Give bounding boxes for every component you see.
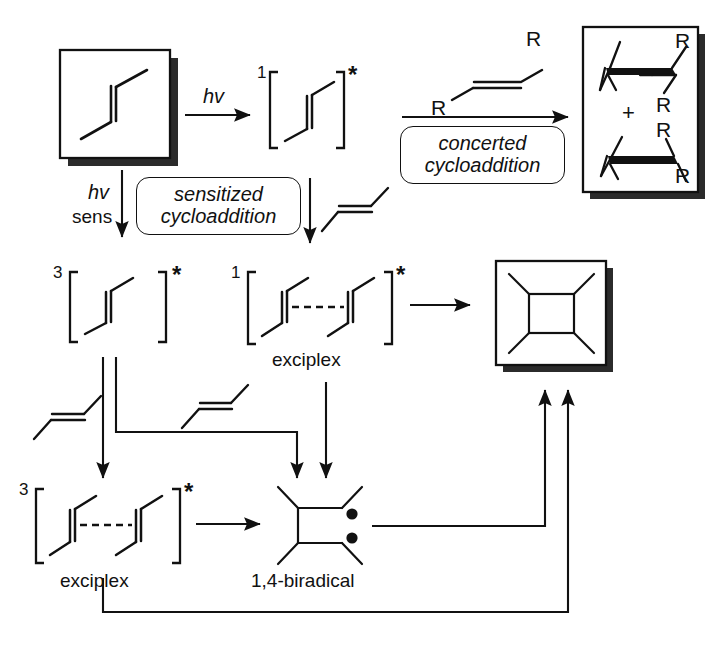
singlet-excited-alkene — [270, 72, 344, 148]
callout-sensitized-cycloaddition: sensitized cycloaddition — [136, 177, 301, 235]
callout-sensitized-line1: sensitized — [174, 183, 263, 205]
label-multiplicity-triplet-excited: 3 — [53, 264, 62, 282]
reagent-alkene-elbow-path — [182, 385, 248, 428]
label-r-group-product-4: R — [675, 165, 690, 187]
callout-concerted-line1: concerted — [439, 132, 527, 154]
callout-concerted-cycloaddition: concerted cycloaddition — [400, 126, 565, 184]
reaction-scheme-diagram: hv 1 * R R R R R R + concerted cycloaddi… — [0, 0, 719, 649]
reagent-alkene-singlet-path — [322, 188, 388, 231]
reagent-alkene-triplet-path — [34, 396, 101, 439]
biradical-structure — [278, 487, 362, 564]
radical-dot-upper — [346, 508, 357, 519]
label-multiplicity-singlet-exciplex: 1 — [231, 264, 240, 282]
label-star-singlet-excited: * — [348, 62, 357, 87]
label-multiplicity-triplet-exciplex: 3 — [19, 481, 28, 499]
callout-sensitized-line2: cycloaddition — [161, 205, 277, 227]
starting-material-box — [60, 50, 178, 166]
label-r-group-reagent-bottom: R — [431, 97, 446, 119]
singlet-exciplex — [248, 272, 392, 344]
reagent-alkene-r-structure — [452, 70, 542, 100]
label-r-group-product-3: R — [656, 119, 671, 141]
label-hv-sens-top: hv — [88, 182, 109, 203]
label-hv-direct: hv — [203, 86, 224, 107]
triplet-exciplex — [36, 489, 180, 563]
label-r-group-product-1: R — [675, 30, 690, 52]
triplet-excited-alkene — [70, 272, 166, 342]
elbow-triplet-to-biradical — [116, 357, 297, 478]
label-r-group-reagent-top: R — [526, 28, 541, 50]
callout-concerted-line2: cycloaddition — [425, 154, 541, 176]
caption-triplet-exciplex: exciplex — [60, 571, 129, 591]
label-plus-sign: + — [622, 101, 635, 124]
label-multiplicity-singlet-excited: 1 — [257, 64, 266, 82]
label-star-triplet-excited: * — [172, 262, 181, 287]
radical-dot-lower — [346, 532, 357, 543]
scheme-vector-layer — [0, 0, 719, 649]
label-star-triplet-exciplex: * — [184, 479, 193, 504]
caption-biradical: 1,4-biradical — [251, 571, 355, 591]
elbow-biradical-to-product — [372, 390, 545, 526]
cyclobutane-product-box — [496, 261, 613, 372]
label-r-group-product-2: R — [656, 94, 671, 116]
label-hv-sens-bottom: sens — [72, 207, 112, 227]
caption-singlet-exciplex: exciplex — [272, 350, 341, 370]
label-star-singlet-exciplex: * — [396, 262, 405, 287]
